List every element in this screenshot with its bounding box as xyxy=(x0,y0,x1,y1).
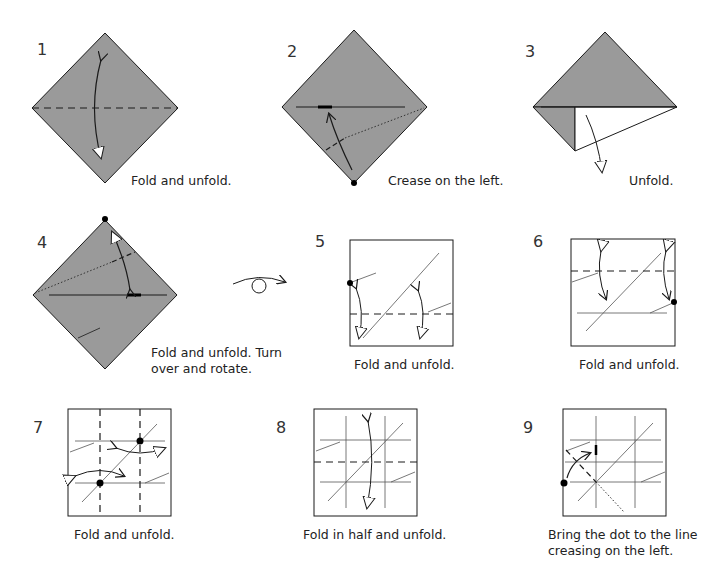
caption-line: Fold and unfold. Turn xyxy=(151,345,282,361)
step-number: 9 xyxy=(523,418,533,437)
step-number: 8 xyxy=(276,418,286,437)
reference-dot xyxy=(561,480,568,487)
step-caption: Unfold. xyxy=(629,173,674,189)
step-3 xyxy=(533,32,677,172)
caption-line: creasing on the left. xyxy=(548,543,698,559)
step-caption: Crease on the left. xyxy=(388,173,503,189)
step-caption: Fold and unfold. xyxy=(74,527,175,543)
turn-over-arrow xyxy=(233,277,285,284)
caption-line: over and rotate. xyxy=(151,361,282,377)
step-caption: Fold and unfold. Turn over and rotate. xyxy=(151,345,282,377)
step-number: 5 xyxy=(315,232,325,251)
step-9 xyxy=(561,409,667,516)
reference-dot xyxy=(671,299,677,305)
step-number: 2 xyxy=(287,42,297,61)
step-8 xyxy=(314,409,417,516)
reference-dot xyxy=(137,438,144,445)
step-6 xyxy=(571,239,677,346)
step-caption: Fold and unfold. xyxy=(354,357,455,373)
paper-left xyxy=(533,107,575,151)
step-caption: Fold in half and unfold. xyxy=(303,527,446,543)
caption-line: Bring the dot to the line xyxy=(548,527,698,543)
reference-dot xyxy=(97,480,104,487)
origami-diagram xyxy=(0,0,712,579)
reference-dot xyxy=(351,180,357,186)
turn-over-circle xyxy=(252,279,266,293)
step-caption: Bring the dot to the line creasing on th… xyxy=(548,527,698,559)
step-2 xyxy=(282,30,427,186)
reference-dot xyxy=(347,280,353,286)
step-1 xyxy=(32,33,178,183)
step-caption: Fold and unfold. xyxy=(579,357,680,373)
step-number: 3 xyxy=(525,42,535,61)
step-number: 6 xyxy=(533,232,543,251)
paper-back xyxy=(533,32,677,107)
step-number: 4 xyxy=(37,233,47,252)
step-7 xyxy=(68,409,171,516)
turn-over-symbol xyxy=(233,277,285,293)
reference-dot xyxy=(102,216,108,222)
step-number: 7 xyxy=(33,418,43,437)
step-caption: Fold and unfold. xyxy=(131,173,232,189)
step-5 xyxy=(347,240,453,346)
paper-square xyxy=(350,240,453,346)
step-number: 1 xyxy=(37,40,47,59)
folded-flap xyxy=(575,107,677,151)
